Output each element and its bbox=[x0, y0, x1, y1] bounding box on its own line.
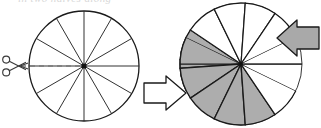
right-figure-center-dot bbox=[239, 62, 243, 66]
right-figure-group bbox=[159, 0, 302, 128]
scissors-handle-lower bbox=[3, 69, 10, 76]
circle-rearrangement-diagram bbox=[0, 0, 321, 128]
arrow-lower-left bbox=[144, 76, 186, 110]
scissors-handle-upper bbox=[3, 56, 10, 63]
arrow-right-icon bbox=[144, 76, 186, 110]
figure-root: in two halves along bbox=[0, 0, 321, 128]
left-circle-group bbox=[3, 11, 139, 121]
left-circle-center-dot bbox=[81, 63, 86, 68]
